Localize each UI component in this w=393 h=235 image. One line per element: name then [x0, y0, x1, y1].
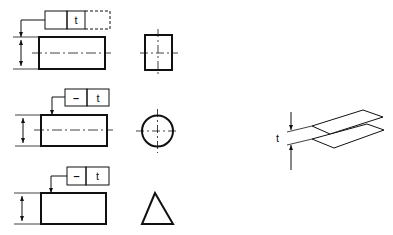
straightness-symbol-2: –: [73, 92, 79, 104]
tolerance-value-1: t: [74, 14, 77, 26]
tolerance-value-3: t: [96, 170, 99, 182]
tolerance-frame-2: – t: [65, 89, 109, 106]
tolerance-frame-3: – t: [67, 167, 109, 185]
section-rectangle: [140, 29, 178, 76]
straightness-symbol-3: –: [73, 170, 79, 182]
leader-arrow-2: [52, 97, 65, 115]
drawing-canvas: t – t: [0, 0, 393, 235]
tolerance-zone: t: [276, 110, 384, 170]
leader-arrow-1: [21, 20, 45, 37]
dashed-cell: [85, 11, 110, 29]
zone-label: t: [276, 132, 279, 144]
row-2: – t: [15, 89, 179, 153]
section-triangle: [142, 193, 173, 224]
part-view-2: [41, 115, 107, 146]
row-3: – t: [14, 167, 173, 224]
part-view-3: [41, 193, 106, 224]
tolerance-value-2: t: [96, 92, 99, 104]
row-1: t: [13, 11, 178, 76]
tolerance-frame-1: t: [45, 11, 110, 29]
section-circle: [136, 109, 179, 153]
leader-arrow-3: [51, 176, 67, 193]
